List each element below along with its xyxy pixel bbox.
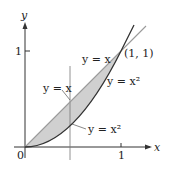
area-between-curves-diagram: y x 0 1 1 y = x (1, 1) y = x² y = x y = … bbox=[0, 0, 174, 172]
strip-bottom-label: y = x² bbox=[87, 123, 121, 136]
y-axis-arrow-icon bbox=[23, 22, 28, 29]
upper-parabola-label: y = x² bbox=[106, 75, 140, 88]
intersection-label: (1, 1) bbox=[124, 47, 154, 60]
origin-label: 0 bbox=[17, 149, 24, 162]
x-axis-arrow-icon bbox=[145, 145, 152, 150]
x-axis-label: x bbox=[154, 141, 161, 154]
y-axis-label: y bbox=[20, 9, 28, 22]
y-tick-label: 1 bbox=[15, 45, 22, 58]
leader-strip-bottom bbox=[72, 124, 86, 129]
upper-line-label: y = x bbox=[81, 53, 111, 66]
x-tick-label: 1 bbox=[118, 149, 125, 162]
strip-top-label: y = x bbox=[42, 82, 72, 95]
